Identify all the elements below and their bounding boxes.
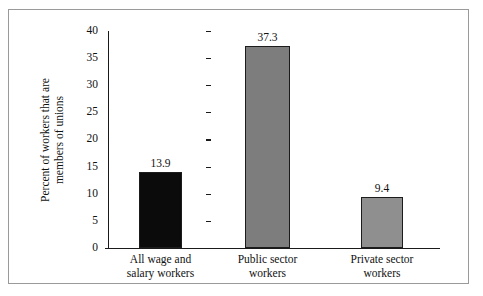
chart-page: Percent of workers that are members of u… — [0, 0, 483, 296]
y-tick-label-20: 20 — [58, 134, 103, 146]
x-category-label-3-line-2: workers — [317, 267, 447, 281]
bar-value-private-sector-workers: 9.4 — [342, 183, 422, 195]
y-tick-label-25: 25 — [58, 107, 103, 119]
bar-public-sector-workers[interactable] — [245, 46, 290, 248]
x-category-label-3-line-1: Private sector — [317, 253, 447, 267]
y-tick-label-10: 10 — [58, 188, 103, 200]
x-category-label-private-sector-workers: Private sector workers — [317, 253, 447, 280]
y-tick-label-15: 15 — [58, 161, 103, 173]
bar-chart: Percent of workers that are members of u… — [0, 0, 483, 296]
y-tick-label-30: 30 — [58, 79, 103, 91]
bar-all-wage-and-salary-workers[interactable] — [139, 172, 182, 247]
bar-value-all-wage-and-salary-workers: 13.9 — [121, 158, 201, 170]
x-category-label-2-line-2: workers — [203, 267, 333, 281]
x-category-label-public-sector-workers: Public sector workers — [203, 253, 333, 280]
y-tick-label-40: 40 — [58, 25, 103, 37]
y-axis-title-line-1: Percent of workers that are — [38, 78, 52, 202]
y-tick-label-5: 5 — [58, 215, 103, 227]
y-tick-label-0: 0 — [58, 242, 103, 254]
y-tick-label-35: 35 — [58, 52, 103, 64]
x-category-label-2-line-1: Public sector — [203, 253, 333, 267]
y-axis-line — [108, 31, 109, 249]
bar-private-sector-workers[interactable] — [361, 197, 403, 248]
bar-value-public-sector-workers: 37.3 — [228, 32, 308, 44]
x-axis-line — [105, 248, 440, 250]
